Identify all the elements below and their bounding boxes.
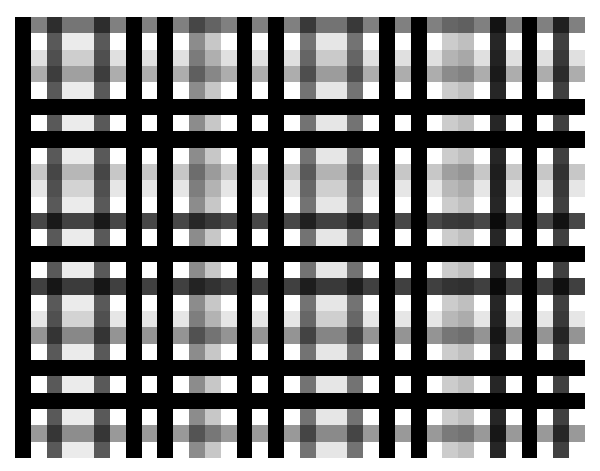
plaid-cell	[522, 82, 538, 98]
plaid-cell	[474, 115, 490, 131]
plaid-cell	[458, 17, 474, 33]
plaid-cell	[411, 442, 427, 458]
plaid-cell	[189, 425, 205, 441]
plaid-cell	[47, 376, 63, 392]
plaid-cell	[569, 148, 585, 164]
plaid-cell	[332, 229, 348, 245]
plaid-cell	[537, 376, 553, 392]
plaid-cell	[347, 442, 363, 458]
plaid-cell	[411, 327, 427, 343]
plaid-cell	[15, 66, 31, 82]
plaid-cell	[569, 360, 585, 376]
plaid-cell	[506, 425, 522, 441]
plaid-cell	[347, 246, 363, 262]
plaid-cell	[205, 246, 221, 262]
plaid-cell	[268, 229, 284, 245]
plaid-cell	[268, 425, 284, 441]
plaid-cell	[569, 131, 585, 147]
plaid-cell	[31, 311, 47, 327]
plaid-cell	[110, 33, 126, 49]
plaid-cell	[284, 115, 300, 131]
plaid-cell	[284, 131, 300, 147]
plaid-cell	[110, 246, 126, 262]
plaid-cell	[15, 213, 31, 229]
plaid-cell	[395, 229, 411, 245]
plaid-cell	[332, 442, 348, 458]
plaid-cell	[237, 229, 253, 245]
plaid-cell	[189, 148, 205, 164]
plaid-cell	[316, 213, 332, 229]
plaid-cell	[62, 197, 78, 213]
plaid-cell	[316, 33, 332, 49]
plaid-cell	[31, 442, 47, 458]
plaid-cell	[268, 131, 284, 147]
plaid-cell	[47, 311, 63, 327]
plaid-cell	[490, 409, 506, 425]
plaid-cell	[569, 164, 585, 180]
plaid-cell	[300, 344, 316, 360]
plaid-cell	[569, 262, 585, 278]
plaid-cell	[553, 393, 569, 409]
plaid-cell	[284, 246, 300, 262]
plaid-cell	[31, 295, 47, 311]
plaid-cell	[537, 33, 553, 49]
plaid-cell	[347, 131, 363, 147]
plaid-cell	[300, 17, 316, 33]
plaid-cell	[94, 278, 110, 294]
plaid-cell	[62, 213, 78, 229]
plaid-cell	[221, 33, 237, 49]
plaid-cell	[252, 409, 268, 425]
plaid-cell	[252, 99, 268, 115]
plaid-cell	[142, 425, 158, 441]
plaid-cell	[332, 344, 348, 360]
plaid-cell	[300, 33, 316, 49]
plaid-cell	[363, 409, 379, 425]
plaid-cell	[189, 442, 205, 458]
plaid-cell	[284, 442, 300, 458]
plaid-cell	[157, 409, 173, 425]
plaid-cell	[126, 66, 142, 82]
plaid-cell	[395, 197, 411, 213]
plaid-cell	[237, 99, 253, 115]
plaid-cell	[474, 164, 490, 180]
plaid-cell	[522, 327, 538, 343]
plaid-cell	[474, 180, 490, 196]
plaid-cell	[157, 393, 173, 409]
plaid-cell	[252, 246, 268, 262]
plaid-cell	[221, 164, 237, 180]
plaid-cell	[62, 262, 78, 278]
plaid-cell	[47, 131, 63, 147]
plaid-cell	[474, 311, 490, 327]
plaid-cell	[474, 360, 490, 376]
plaid-cell	[411, 115, 427, 131]
plaid-cell	[427, 131, 443, 147]
plaid-cell	[221, 425, 237, 441]
plaid-cell	[537, 180, 553, 196]
plaid-cell	[395, 295, 411, 311]
plaid-cell	[458, 50, 474, 66]
plaid-cell	[15, 148, 31, 164]
plaid-cell	[189, 393, 205, 409]
plaid-cell	[173, 409, 189, 425]
plaid-cell	[31, 344, 47, 360]
plaid-cell	[15, 360, 31, 376]
plaid-cell	[252, 360, 268, 376]
plaid-cell	[347, 82, 363, 98]
plaid-cell	[94, 311, 110, 327]
plaid-cell	[442, 17, 458, 33]
plaid-cell	[490, 197, 506, 213]
plaid-cell	[205, 393, 221, 409]
plaid-cell	[569, 278, 585, 294]
plaid-cell	[189, 409, 205, 425]
plaid-cell	[205, 50, 221, 66]
plaid-cell	[252, 33, 268, 49]
plaid-cell	[506, 246, 522, 262]
plaid-cell	[490, 148, 506, 164]
plaid-cell	[379, 17, 395, 33]
plaid-cell	[395, 393, 411, 409]
plaid-cell	[157, 180, 173, 196]
plaid-cell	[300, 99, 316, 115]
plaid-cell	[474, 344, 490, 360]
plaid-cell	[474, 442, 490, 458]
plaid-cell	[347, 99, 363, 115]
